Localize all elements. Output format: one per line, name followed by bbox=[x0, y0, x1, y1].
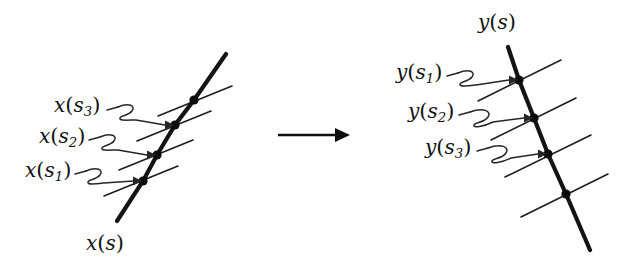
label-x-s1-arg: s bbox=[44, 158, 54, 182]
label-y-s2-subscript: 2 bbox=[438, 110, 446, 125]
leader-line-xs1 bbox=[75, 171, 86, 174]
label-x-s3: x(s3) bbox=[54, 95, 100, 116]
label-y-s3-arg: s bbox=[445, 135, 455, 159]
label-x-s2-arg: s bbox=[58, 124, 68, 148]
leader-line-xs2 bbox=[89, 137, 100, 140]
left-transverse-lines bbox=[104, 86, 232, 196]
label-y-s-arg: s bbox=[498, 10, 508, 34]
label-y-s1: y(s1) bbox=[396, 62, 442, 83]
label-x-s2-fn: x bbox=[39, 124, 50, 148]
label-y-s1-arg: s bbox=[416, 60, 426, 84]
leader-line-ys2 bbox=[459, 112, 470, 115]
squiggle-ys1 bbox=[458, 71, 509, 86]
label-y-s2-arg: s bbox=[428, 99, 438, 123]
diagram-canvas: x(s3) x(s2) x(s1) x(s) y(s) y(s1) y(s2) … bbox=[0, 0, 639, 276]
label-x-s3-paren-close: ) bbox=[92, 93, 100, 117]
label-x-s2: x(s2) bbox=[39, 126, 85, 147]
label-y-s3: y(s3) bbox=[425, 137, 471, 158]
label-y-s2-paren-open: ( bbox=[419, 99, 427, 123]
leader-line-ys1 bbox=[447, 73, 458, 76]
label-y-s3-fn: y bbox=[425, 135, 436, 159]
squiggle-xs1 bbox=[86, 169, 133, 184]
label-x-s-arg: s bbox=[105, 231, 115, 255]
squiggle-xs3 bbox=[118, 105, 165, 125]
label-y-s1-paren-open: ( bbox=[407, 60, 415, 84]
label-x-s1: x(s1) bbox=[25, 160, 71, 181]
transform-arrow bbox=[278, 128, 350, 142]
label-x-s-paren-close: ) bbox=[116, 231, 124, 255]
leader-line-xs3 bbox=[107, 107, 118, 110]
label-x-s2-paren-close: ) bbox=[77, 124, 85, 148]
squiggle-xs2 bbox=[100, 135, 147, 155]
label-y-s3-paren-close: ) bbox=[463, 135, 471, 159]
label-x-s3-fn: x bbox=[54, 93, 65, 117]
label-y-s1-subscript: 1 bbox=[426, 71, 434, 86]
label-x-s1-subscript: 1 bbox=[55, 169, 63, 184]
label-y-s2-paren-close: ) bbox=[446, 99, 454, 123]
label-x-s1-fn: x bbox=[25, 158, 36, 182]
label-y-s-curve: y(s) bbox=[478, 12, 516, 33]
source-curve-path bbox=[117, 54, 226, 221]
label-x-s1-paren-close: ) bbox=[63, 158, 71, 182]
curve-node-4 bbox=[189, 95, 198, 104]
label-x-s3-arg: s bbox=[73, 93, 83, 117]
label-y-s1-fn: y bbox=[396, 60, 407, 84]
squiggle-ys2 bbox=[470, 110, 524, 127]
label-y-s-fn: y bbox=[478, 10, 489, 34]
leader-line-ys3 bbox=[477, 148, 488, 151]
label-y-s2-fn: y bbox=[408, 99, 419, 123]
label-x-s2-subscript: 2 bbox=[69, 135, 77, 150]
label-y-s2: y(s2) bbox=[408, 101, 454, 122]
label-y-s3-subscript: 3 bbox=[455, 146, 463, 161]
label-y-s3-paren-open: ( bbox=[436, 135, 444, 159]
squiggle-ys3 bbox=[488, 146, 538, 163]
label-x-s3-subscript: 3 bbox=[84, 104, 92, 119]
label-x-s-curve: x(s) bbox=[86, 233, 124, 254]
transform-arrow-head bbox=[335, 128, 350, 142]
curve-node-8 bbox=[561, 189, 570, 198]
label-y-s-paren-open: ( bbox=[489, 10, 497, 34]
left-panel-graphics bbox=[75, 54, 232, 221]
label-y-s1-paren-close: ) bbox=[434, 60, 442, 84]
label-x-s-fn: x bbox=[86, 231, 97, 255]
label-y-s-paren-close: ) bbox=[508, 10, 516, 34]
